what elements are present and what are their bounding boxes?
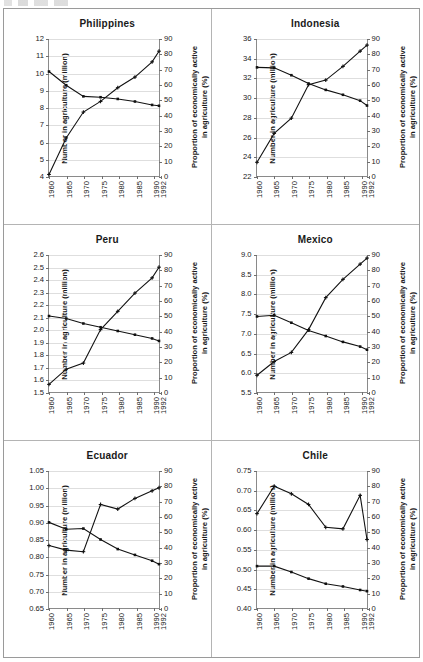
y-tick-right xyxy=(367,70,370,71)
data-marker xyxy=(48,70,51,73)
y-tick-right xyxy=(159,162,162,163)
y-tick-right xyxy=(159,563,162,564)
y-tick-right xyxy=(159,70,162,71)
series-layer xyxy=(49,255,159,392)
y-tick-label-right: 90 xyxy=(164,35,172,43)
data-marker xyxy=(99,96,102,99)
y-tick-label-right: 30 xyxy=(372,559,380,567)
y-tick-label-left: 26 xyxy=(243,134,251,142)
x-tick-label: 1985 xyxy=(343,181,351,198)
y-tick-left xyxy=(46,293,49,294)
plot-area: 5.56.06.57.07.58.08.59.00102030405060708… xyxy=(256,255,368,393)
y-tick-label-right: 0 xyxy=(372,173,376,181)
data-marker xyxy=(272,565,275,568)
data-marker xyxy=(341,585,344,588)
y-tick-left xyxy=(46,56,49,57)
gridline xyxy=(49,488,159,489)
y-tick-left xyxy=(254,294,257,295)
y-tick-label-right: 0 xyxy=(164,605,168,613)
y-tick-left xyxy=(254,78,257,79)
x-tick xyxy=(309,608,310,611)
y-tick-right xyxy=(159,116,162,117)
x-tick xyxy=(309,392,310,395)
x-tick-label: 1980 xyxy=(326,613,334,630)
x-tick xyxy=(274,176,275,179)
x-tick xyxy=(102,392,103,395)
y-tick-label-left: 12 xyxy=(36,35,44,43)
y-tick-right xyxy=(367,116,370,117)
y-tick-label-left: 0.95 xyxy=(29,502,44,510)
series-line-number xyxy=(257,67,367,105)
x-tick xyxy=(327,608,328,611)
x-tick xyxy=(154,392,155,395)
y-tick-label-left: 1.05 xyxy=(29,467,44,475)
x-tick xyxy=(67,392,68,395)
y-tick-label-right: 10 xyxy=(164,374,172,382)
gridline xyxy=(257,118,367,119)
y-tick-label-right: 80 xyxy=(164,51,172,59)
y-tick-label-right: 50 xyxy=(372,529,380,537)
x-tick xyxy=(102,608,103,611)
x-tick-label: 1985 xyxy=(136,181,144,198)
x-tick-label: 1992 xyxy=(160,181,168,198)
chart-title: Peru xyxy=(4,234,211,245)
data-marker xyxy=(272,67,275,70)
x-tick-label: 1992 xyxy=(368,613,376,630)
y-axis-right-title-line1: Proportion of economically active xyxy=(398,478,408,600)
y-tick-left xyxy=(46,91,49,92)
x-tick xyxy=(67,608,68,611)
y-axis-right-title-line2: in agriculture (%) xyxy=(408,46,418,168)
x-tick-label: 1980 xyxy=(326,181,334,198)
series-line-proportion xyxy=(49,488,159,552)
y-tick-label-right: 90 xyxy=(372,467,380,475)
y-tick-right xyxy=(159,255,162,256)
x-tick-label: 1960 xyxy=(48,613,56,630)
y-tick-label-left: 9.0 xyxy=(241,251,252,259)
x-tick xyxy=(137,608,138,611)
y-tick-label-left: 7.5 xyxy=(241,310,252,318)
y-tick-label-right: 50 xyxy=(372,313,380,321)
y-tick-left xyxy=(254,570,257,571)
y-tick-right xyxy=(159,594,162,595)
y-axis-right-title: Proportion of economically activein agri… xyxy=(186,247,212,399)
y-tick-label-right: 30 xyxy=(164,127,172,135)
y-axis-right-title-line1: Proportion of economically active xyxy=(190,478,200,600)
y-tick-label-right: 40 xyxy=(372,544,380,552)
x-tick-label: 1975 xyxy=(308,613,316,630)
gridline xyxy=(257,550,367,551)
y-tick-right xyxy=(159,85,162,86)
gridline xyxy=(49,143,159,144)
x-tick-label: 1975 xyxy=(308,181,316,198)
y-tick-label-right: 50 xyxy=(164,313,172,321)
x-tick-label: 1960 xyxy=(256,397,264,414)
y-tick-label-left: 5.5 xyxy=(241,389,252,397)
x-tick-label: 1992 xyxy=(160,613,168,630)
y-tick-left xyxy=(254,530,257,531)
y-tick-label-right: 30 xyxy=(164,343,172,351)
data-marker xyxy=(290,321,293,324)
y-tick-label-right: 90 xyxy=(164,251,172,259)
x-tick xyxy=(292,176,293,179)
y-tick-label-left: 0.70 xyxy=(29,588,44,596)
y-tick-label-left: 2.5 xyxy=(33,264,44,272)
y-tick-right xyxy=(159,502,162,503)
y-tick-left xyxy=(46,330,49,331)
y-tick-label-right: 80 xyxy=(164,483,172,491)
data-marker xyxy=(255,315,258,318)
chart-panel-philippines: PhilippinesNumber in agriculture (millio… xyxy=(4,9,212,225)
y-tick-label-left: 7 xyxy=(40,121,44,129)
y-tick-label-right: 60 xyxy=(164,297,172,305)
x-tick-label: 1970 xyxy=(83,397,91,414)
y-tick-label-left: 2.3 xyxy=(33,289,44,297)
data-marker xyxy=(65,528,68,531)
x-tick-label: 1965 xyxy=(66,613,74,630)
gridline xyxy=(49,330,159,331)
y-tick-label-left: 32 xyxy=(243,75,251,83)
data-marker xyxy=(116,98,119,101)
y-tick-right xyxy=(367,301,370,302)
x-tick xyxy=(49,392,50,395)
scan-artifact xyxy=(4,0,74,6)
data-marker xyxy=(341,93,344,96)
y-tick-label-right: 80 xyxy=(372,267,380,275)
y-tick-left xyxy=(46,108,49,109)
